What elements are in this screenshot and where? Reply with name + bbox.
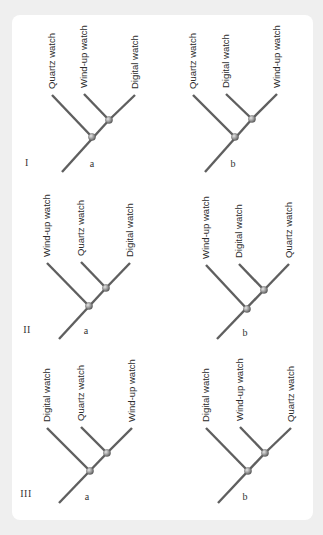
leaf-branch xyxy=(206,265,247,309)
inner-node-icon xyxy=(248,115,255,122)
tree-b: Digital watchWind-up watchQuartz watchb xyxy=(200,358,296,503)
root-node-icon xyxy=(231,133,238,140)
inner-node-icon xyxy=(102,284,109,291)
tree-a: Quartz watchWind-up watchDigital watcha xyxy=(46,25,140,172)
root-node-icon xyxy=(86,467,93,474)
leaf-label: Digital watch xyxy=(220,34,231,88)
leaf-label: Wind-up watch xyxy=(200,196,211,259)
leaf-label: Quartz watch xyxy=(283,202,294,258)
leaf-label: Quartz watch xyxy=(75,365,86,421)
tree-letter: a xyxy=(85,491,90,502)
tree-b: Quartz watchDigital watchWind-up watchb xyxy=(187,25,282,172)
tree-letter: b xyxy=(243,327,248,338)
inner-node-icon xyxy=(260,286,267,293)
tree-a: Digital watchQuartz watchWind-up watcha xyxy=(41,359,137,503)
root-node-icon xyxy=(88,133,95,140)
leaf-label: Wind-up watch xyxy=(126,359,137,422)
inner-node-icon xyxy=(105,116,112,123)
leaf-branch xyxy=(106,263,130,288)
leaf-label: Quartz watch xyxy=(46,33,57,89)
root-node-icon xyxy=(243,305,250,312)
leaf-branch xyxy=(47,263,89,306)
inner-node-icon xyxy=(261,449,268,456)
leaf-branch xyxy=(252,94,277,119)
row-numeral: II xyxy=(23,324,31,335)
trees-layer: IQuartz watchWind-up watchDigital watcha… xyxy=(20,25,296,503)
leaf-label: Digital watch xyxy=(233,204,244,258)
trunk-branch xyxy=(59,288,106,339)
phylogenetic-trees-diagram: IQuartz watchWind-up watchDigital watcha… xyxy=(0,0,323,535)
trunk-branch xyxy=(217,290,264,339)
leaf-branch xyxy=(239,264,264,290)
leaf-branch xyxy=(240,427,265,453)
inner-node-icon xyxy=(103,449,110,456)
root-node-icon xyxy=(85,302,92,309)
tree-letter: b xyxy=(243,491,248,502)
root-node-icon xyxy=(244,467,251,474)
leaf-label: Quartz watch xyxy=(75,200,86,256)
row-1: IQuartz watchWind-up watchDigital watcha… xyxy=(25,25,282,172)
row-2: IIWind-up watchQuartz watchDigital watch… xyxy=(23,194,294,339)
leaf-branch xyxy=(226,94,252,119)
tree-letter: a xyxy=(84,325,89,336)
leaf-label: Wind-up watch xyxy=(234,358,245,421)
trunk-branch xyxy=(205,119,252,172)
leaf-label: Digital watch xyxy=(41,368,52,422)
trunk-branch xyxy=(59,453,107,503)
row-3: IIIDigital watchQuartz watchWind-up watc… xyxy=(20,358,296,503)
leaf-label: Quartz watch xyxy=(187,33,198,89)
leaf-label: Wind-up watch xyxy=(41,194,52,257)
leaf-label: Quartz watch xyxy=(285,366,296,422)
leaf-branch xyxy=(109,95,135,120)
leaf-branch xyxy=(81,427,107,453)
leaf-label: Wind-up watch xyxy=(271,25,282,88)
tree-a: Wind-up watchQuartz watchDigital watcha xyxy=(41,194,135,339)
leaf-branch xyxy=(84,94,109,120)
row-numeral: I xyxy=(25,157,29,168)
leaf-branch xyxy=(265,428,291,453)
leaf-label: Digital watch xyxy=(129,35,140,89)
trunk-branch xyxy=(62,120,109,172)
leaf-label: Digital watch xyxy=(200,368,211,422)
leaf-branch xyxy=(47,428,90,471)
tree-letter: b xyxy=(231,158,236,169)
leaf-label: Digital watch xyxy=(124,203,135,257)
leaf-branch xyxy=(264,264,289,290)
leaf-branch xyxy=(107,428,132,453)
leaf-branch xyxy=(193,95,235,137)
leaf-branch xyxy=(206,428,248,471)
leaf-branch xyxy=(81,262,106,288)
tree-b: Wind-up watchDigital watchQuartz watchb xyxy=(200,196,294,339)
leaf-branch xyxy=(52,95,92,137)
trunk-branch xyxy=(218,453,265,503)
row-numeral: III xyxy=(20,488,32,499)
leaf-label: Wind-up watch xyxy=(78,25,89,88)
tree-letter: a xyxy=(90,158,95,169)
